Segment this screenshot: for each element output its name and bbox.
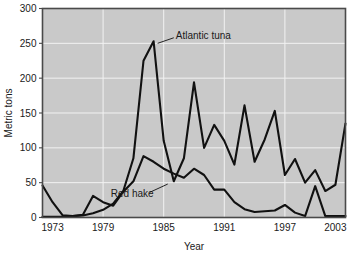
y-tick-label: 50 (25, 177, 37, 188)
x-axis-title: Year (184, 241, 205, 252)
y-tick-label: 0 (31, 212, 37, 223)
chart-container: 050100150200250300 197319791985199119972… (0, 0, 354, 257)
x-tick-label: 1985 (153, 222, 176, 233)
y-tick-label: 250 (20, 38, 37, 49)
x-tick-label: 1991 (213, 222, 236, 233)
annotation-label: Atlantic tuna (176, 30, 231, 41)
x-tick-label: 1979 (92, 222, 115, 233)
y-axis-title: Metric tons (3, 89, 14, 138)
line-chart: 050100150200250300 197319791985199119972… (0, 0, 354, 257)
x-tick-label: 1973 (42, 222, 65, 233)
x-tick-label: 2003 (324, 222, 347, 233)
y-tick-label: 300 (20, 3, 37, 14)
y-tick-label: 200 (20, 73, 37, 84)
annotation-label: Red hake (111, 188, 154, 199)
y-tick-label: 100 (20, 142, 37, 153)
x-tick-label: 1997 (274, 222, 297, 233)
y-tick-label: 150 (20, 108, 37, 119)
